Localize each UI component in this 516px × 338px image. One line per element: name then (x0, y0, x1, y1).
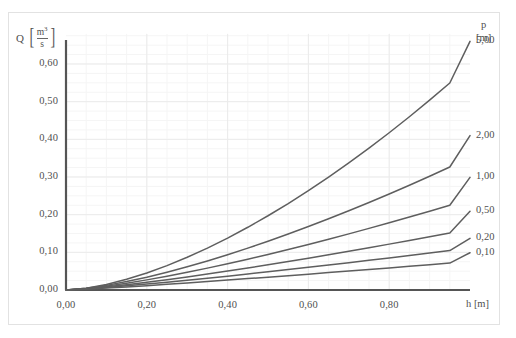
unit-fraction: m3 s (36, 26, 49, 49)
y-tick-label: 0,30 (14, 170, 58, 181)
y-tick-label: 0,00 (14, 283, 58, 294)
y-tick-label: 0,60 (14, 57, 58, 68)
y-axis-unit: [ m3 s ] (28, 26, 56, 49)
unit-denominator: s (40, 39, 44, 49)
right-bracket-glyph: ] (50, 28, 55, 47)
x-tick-label: 0,80 (359, 299, 419, 310)
y-tick-label: 0,20 (14, 208, 58, 219)
curve-label: 0,10 (476, 246, 494, 257)
x-tick-label: 0,60 (278, 299, 338, 310)
chart-figure: Q [ m3 s ] p [m] h [m] 0,000,100,200,300… (0, 0, 516, 338)
curve-label: 1,00 (476, 170, 494, 181)
left-bracket-glyph: [ (29, 28, 34, 47)
y-tick-label: 0,40 (14, 132, 58, 143)
legend-title: p (476, 18, 491, 31)
y-tick-label: 0,10 (14, 245, 58, 256)
x-tick-label: 0,20 (117, 299, 177, 310)
curve-label: 0,20 (476, 231, 494, 242)
x-tick-label: 0,40 (198, 299, 258, 310)
plot-canvas (0, 0, 516, 338)
y-axis-title: Q [ m3 s ] (16, 26, 56, 49)
x-tick-label: 0,00 (36, 299, 96, 310)
y-tick-label: 0,50 (14, 95, 58, 106)
y-axis-symbol: Q (16, 32, 24, 44)
grid-minor-lines (66, 34, 470, 290)
unit-numerator: m3 (37, 26, 48, 38)
curve-label: 2,00 (476, 129, 494, 140)
curve-label: 5,00 (476, 34, 494, 45)
x-axis-title: h [m] (466, 298, 489, 309)
curve-label: 0,50 (476, 204, 494, 215)
